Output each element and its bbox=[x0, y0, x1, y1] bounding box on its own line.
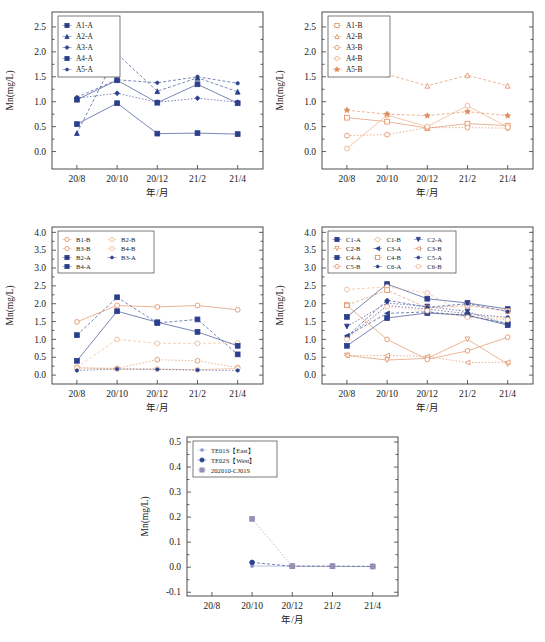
legend-label: B2-B bbox=[121, 236, 136, 243]
x-tick-label: 20/10 bbox=[376, 389, 398, 399]
legend-label: B3-A bbox=[121, 254, 136, 261]
x-axis-title: 年/月 bbox=[146, 187, 169, 198]
y-axis-title: Mn(mg/L) bbox=[275, 285, 286, 325]
legend-label: C2-B bbox=[346, 245, 361, 252]
y-tick-label: 0.0 bbox=[34, 370, 46, 380]
x-tick-label: 21/4 bbox=[499, 174, 516, 184]
y-tick-label: 0.5 bbox=[34, 122, 46, 132]
legend-label: A4-B bbox=[346, 54, 362, 63]
x-axis-title: 年/月 bbox=[281, 614, 304, 625]
legend-label: B3-B bbox=[76, 245, 91, 252]
x-tick-label: 20/10 bbox=[106, 174, 128, 184]
y-tick-label: 1.5 bbox=[34, 72, 46, 82]
x-tick-label: 20/12 bbox=[416, 174, 438, 184]
chart-panel-c: 0.00.51.01.52.02.53.03.54.020/820/1020/1… bbox=[275, 227, 533, 413]
legend-label: TE01S【East】 bbox=[211, 447, 255, 454]
x-tick-label: 21/2 bbox=[189, 389, 206, 399]
x-tick-label: 20/8 bbox=[68, 174, 85, 184]
legend-label: A1-B bbox=[346, 21, 362, 30]
y-tick-label: 0.5 bbox=[304, 122, 316, 132]
y-tick-label: -0.1 bbox=[166, 587, 181, 597]
x-tick-label: 21/2 bbox=[324, 601, 341, 611]
legend-label: A3-A bbox=[76, 43, 93, 52]
x-tick-label: 20/8 bbox=[338, 389, 355, 399]
legend-label: A5-A bbox=[76, 65, 93, 74]
x-axis-title: 年/月 bbox=[416, 187, 439, 198]
legend-label: C6-A bbox=[387, 263, 402, 270]
y-tick-label: 2.0 bbox=[304, 47, 316, 57]
y-tick-label: 4.0 bbox=[34, 228, 46, 238]
series-line bbox=[252, 519, 373, 567]
y-tick-label: 2.5 bbox=[34, 281, 46, 291]
y-tick-label: 1.5 bbox=[304, 72, 316, 82]
y-axis-title: Mn(mg/L) bbox=[5, 70, 16, 110]
y-tick-label: 1.0 bbox=[304, 335, 316, 345]
x-tick-label: 20/10 bbox=[376, 174, 398, 184]
x-tick-label: 20/8 bbox=[203, 601, 220, 611]
x-tick-label: 20/10 bbox=[241, 601, 263, 611]
y-tick-label: 1.0 bbox=[34, 335, 46, 345]
x-tick-label: 21/4 bbox=[499, 389, 516, 399]
y-tick-label: 3.0 bbox=[304, 263, 316, 273]
y-axis-title: Mn(mg/L) bbox=[5, 285, 16, 325]
legend-label: C5-B bbox=[346, 263, 361, 270]
x-tick-label: 21/4 bbox=[229, 174, 246, 184]
chart-panel-b: 0.00.51.01.52.02.53.03.54.020/820/1020/1… bbox=[5, 227, 263, 413]
y-tick-label: 2.5 bbox=[304, 281, 316, 291]
y-tick-label: 0.5 bbox=[304, 352, 316, 362]
series-202010-CJ01S bbox=[250, 516, 375, 568]
legend-label: B1-B bbox=[76, 236, 91, 243]
y-tick-label: 2.0 bbox=[304, 299, 316, 309]
x-tick-label: 20/12 bbox=[281, 601, 303, 611]
series-B2-B bbox=[75, 337, 241, 370]
legend-label: A2-A bbox=[76, 32, 93, 41]
legend-label: C4-A bbox=[346, 254, 361, 261]
legend-label: A3-B bbox=[346, 43, 362, 52]
x-tick-label: 21/2 bbox=[459, 389, 476, 399]
y-tick-label: 0.0 bbox=[34, 147, 46, 157]
y-tick-label: 3.5 bbox=[34, 245, 46, 255]
chart-panel-a-b: 0.00.51.01.52.02.520/820/1020/1221/221/4… bbox=[275, 12, 533, 198]
legend-label: TE02S【West】 bbox=[211, 457, 256, 464]
x-tick-label: 20/12 bbox=[146, 389, 168, 399]
legend-label: 202010-CJ01S bbox=[211, 467, 251, 474]
x-tick-label: 20/12 bbox=[146, 174, 168, 184]
series-line bbox=[77, 77, 238, 97]
y-tick-label: 0.2 bbox=[169, 512, 181, 522]
y-tick-label: 0.5 bbox=[169, 437, 181, 447]
legend-label: C4-B bbox=[387, 254, 402, 261]
y-tick-label: 0.5 bbox=[34, 352, 46, 362]
y-tick-label: 1.5 bbox=[304, 317, 316, 327]
y-tick-label: 3.0 bbox=[34, 263, 46, 273]
y-tick-label: 3.5 bbox=[304, 245, 316, 255]
legend-label: C5-A bbox=[427, 254, 442, 261]
y-tick-label: 0.1 bbox=[169, 537, 181, 547]
legend-label: B2-A bbox=[76, 254, 91, 261]
x-tick-label: 21/2 bbox=[189, 174, 206, 184]
y-tick-label: 2.0 bbox=[34, 299, 46, 309]
series-A5-A bbox=[75, 75, 239, 99]
y-tick-label: 0.3 bbox=[169, 487, 181, 497]
y-tick-label: 2.5 bbox=[304, 22, 316, 32]
legend-label: A4-A bbox=[76, 54, 93, 63]
series-A5-B bbox=[344, 107, 510, 118]
y-tick-label: 2.5 bbox=[34, 22, 46, 32]
legend-label: B4-A bbox=[76, 263, 91, 270]
legend-label: C3-A bbox=[387, 245, 402, 252]
y-tick-label: 1.0 bbox=[304, 97, 316, 107]
y-tick-label: 0.0 bbox=[169, 562, 181, 572]
series-A4-B bbox=[345, 103, 511, 151]
series-line bbox=[77, 103, 238, 134]
x-tick-label: 20/10 bbox=[106, 389, 128, 399]
series-TE02S【West】 bbox=[250, 560, 375, 569]
y-axis-title: Mn(mg/L) bbox=[140, 496, 151, 536]
legend-label: C1-A bbox=[346, 236, 361, 243]
x-tick-label: 21/2 bbox=[459, 174, 476, 184]
x-tick-label: 20/12 bbox=[416, 389, 438, 399]
legend-label: A2-B bbox=[346, 32, 362, 41]
y-tick-label: 2.0 bbox=[34, 47, 46, 57]
series-line bbox=[77, 311, 238, 361]
legend-label: A1-A bbox=[76, 21, 93, 30]
x-axis-title: 年/月 bbox=[146, 402, 169, 413]
y-tick-label: 4.0 bbox=[304, 228, 316, 238]
